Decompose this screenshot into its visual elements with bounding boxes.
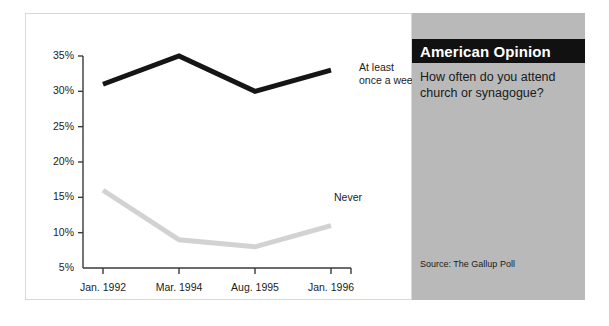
- x-axis-tick-label: Jan. 1996: [286, 281, 376, 293]
- opinion-question-line-2: church or synagogue?: [420, 85, 580, 101]
- series-line-1: [103, 56, 331, 91]
- y-axis-tick-label: 25%: [32, 120, 74, 132]
- opinion-banner: American Opinion: [412, 39, 585, 63]
- opinion-question: How often do you attend church or synago…: [420, 69, 580, 101]
- series-annotation-1: At leastonce a week: [359, 61, 418, 87]
- series-line-2: [103, 190, 331, 247]
- american-opinion-sidebar: American Opinion How often do you attend…: [412, 13, 585, 300]
- y-axis-tick-label: 5%: [32, 261, 74, 273]
- opinion-banner-title: American Opinion: [412, 43, 551, 60]
- y-axis-tick-label: 20%: [32, 155, 74, 167]
- series-annotation-line: once a week: [359, 74, 418, 87]
- line-chart-svg: [26, 14, 413, 301]
- figure-root: 5%10%15%20%25%30%35%Jan. 1992Mar. 1994Au…: [0, 0, 609, 326]
- plot-area: 5%10%15%20%25%30%35%Jan. 1992Mar. 1994Au…: [26, 14, 413, 301]
- y-axis-tick-label: 30%: [32, 84, 74, 96]
- chart-panel: 5%10%15%20%25%30%35%Jan. 1992Mar. 1994Au…: [25, 13, 412, 300]
- y-axis-tick-label: 10%: [32, 226, 74, 238]
- series-annotation-2: Never: [334, 191, 362, 204]
- series-annotation-line: Never: [334, 191, 362, 204]
- y-axis-tick-label: 35%: [32, 49, 74, 61]
- series-annotation-line: At least: [359, 61, 418, 74]
- opinion-question-line-1: How often do you attend: [420, 69, 580, 85]
- y-axis-tick-label: 15%: [32, 190, 74, 202]
- opinion-source-credit: Source: The Gallup Poll: [420, 259, 515, 269]
